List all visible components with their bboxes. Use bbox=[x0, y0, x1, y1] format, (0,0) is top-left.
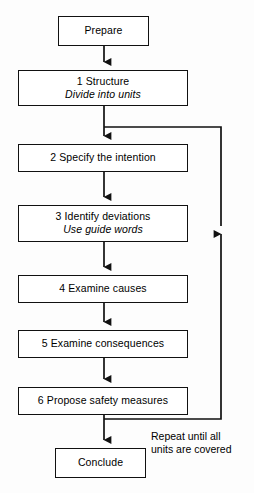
node-prepare-label: Prepare bbox=[84, 25, 122, 37]
node-step-1-sublabel: Divide into units bbox=[65, 89, 141, 101]
node-prepare[interactable]: Prepare bbox=[58, 16, 149, 46]
flowchart-diagram: Prepare 1 Structure Divide into units 2 … bbox=[0, 0, 254, 493]
node-step-2-label: 2 Specify the intention bbox=[50, 152, 156, 164]
node-step-3-label: 3 Identify deviations bbox=[56, 211, 151, 223]
node-conclude[interactable]: Conclude bbox=[55, 448, 146, 478]
node-step-3-sublabel: Use guide words bbox=[63, 224, 143, 236]
node-step-4-label: 4 Examine causes bbox=[59, 283, 146, 295]
node-step-6[interactable]: 6 Propose safety measures bbox=[18, 387, 188, 415]
loop-label-line-1: Repeat until all bbox=[151, 430, 232, 443]
node-step-4[interactable]: 4 Examine causes bbox=[18, 275, 188, 303]
node-step-1-label: 1 Structure bbox=[77, 76, 129, 88]
loop-label: Repeat until all units are covered bbox=[151, 430, 232, 456]
node-step-1[interactable]: 1 Structure Divide into units bbox=[18, 70, 188, 106]
node-step-5[interactable]: 5 Examine consequences bbox=[18, 330, 188, 358]
loop-label-line-2: units are covered bbox=[151, 443, 232, 456]
node-step-2[interactable]: 2 Specify the intention bbox=[18, 144, 188, 172]
node-step-3[interactable]: 3 Identify deviations Use guide words bbox=[18, 205, 188, 242]
node-conclude-label: Conclude bbox=[78, 457, 123, 469]
node-step-6-label: 6 Propose safety measures bbox=[38, 395, 168, 407]
node-step-5-label: 5 Examine consequences bbox=[42, 338, 164, 350]
